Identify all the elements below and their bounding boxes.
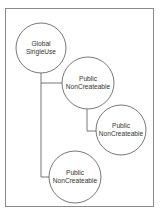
node-label-line2: SingleUse bbox=[26, 48, 56, 56]
node-public-noncreateable-3[interactable]: Public NonCreateable bbox=[49, 151, 101, 203]
node-public-noncreateable-2[interactable]: Public NonCreateable bbox=[96, 105, 146, 155]
node-label-line1: Global bbox=[31, 40, 51, 47]
node-label-line1: Public bbox=[112, 122, 131, 129]
hierarchy-diagram: Global SingleUse Public NonCreateable Pu… bbox=[0, 0, 161, 218]
node-label-line1: Public bbox=[79, 75, 98, 82]
node-label-line1: Public bbox=[66, 169, 85, 176]
node-label-line2: NonCreateable bbox=[99, 130, 144, 137]
node-label-line2: NonCreateable bbox=[53, 177, 98, 184]
node-public-noncreateable-1[interactable]: Public NonCreateable bbox=[62, 57, 114, 109]
node-global-singleuse[interactable]: Global SingleUse bbox=[16, 23, 66, 73]
node-label-line2: NonCreateable bbox=[66, 83, 111, 90]
